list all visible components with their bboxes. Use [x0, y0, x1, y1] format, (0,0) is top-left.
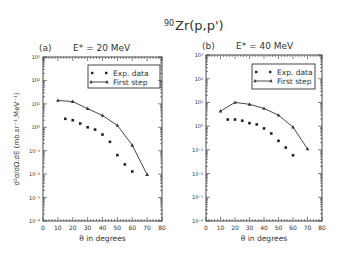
- x-tick-label: 40: [99, 224, 107, 231]
- x-tick-label: 70: [304, 224, 312, 231]
- chart-canvas: 90 Zr(p,p') (a)E* = 20 MeV01020304050607…: [0, 0, 343, 256]
- exp-data-point: [270, 132, 273, 135]
- x-tick-label: 70: [143, 224, 151, 231]
- x-axis-label: θ in degrees: [79, 234, 125, 243]
- legend-exp-marker: [255, 71, 257, 73]
- exp-data-point: [86, 126, 89, 129]
- y-tick-label: 10⁰: [32, 124, 40, 130]
- legend-first-step-label: First step: [277, 77, 312, 86]
- figure: 90 Zr(p,p') (a)E* = 20 MeV01020304050607…: [0, 0, 343, 256]
- legend: Exp. dataFirst step: [252, 64, 315, 89]
- legend-first-step-label: First step: [113, 78, 148, 87]
- y-tick-label: 10⁻¹: [29, 148, 40, 154]
- legend-exp-marker: [105, 72, 107, 74]
- exp-data-point: [292, 154, 295, 157]
- panel-b: (b)E* = 40 MeV01020304050607080θ in degr…: [192, 41, 326, 243]
- y-tick-label: 10⁻²: [29, 171, 40, 177]
- x-tick-label: 20: [231, 224, 239, 231]
- y-tick-label: 10³: [32, 54, 40, 60]
- legend-exp-label: Exp. data: [113, 69, 149, 78]
- y-tick-label: 10²: [32, 77, 40, 83]
- exp-data-point: [241, 119, 244, 122]
- x-tick-label: 80: [158, 224, 166, 231]
- x-tick-label: 10: [54, 224, 62, 231]
- legend-exp-label: Exp. data: [277, 68, 313, 77]
- exp-data-point: [234, 118, 237, 121]
- exp-data-point: [263, 127, 266, 130]
- y-tick-label: 10⁻³: [29, 195, 40, 201]
- x-tick-label: 30: [246, 224, 254, 231]
- x-axis-label: θ in degrees: [241, 234, 287, 243]
- exp-data-point: [255, 123, 258, 126]
- y-tick-label: 10⁻⁴: [192, 218, 203, 224]
- exp-data-point: [79, 122, 82, 125]
- panel-label: (b): [202, 41, 215, 51]
- exp-data-point: [284, 146, 287, 149]
- y-tick-label: 10⁰: [195, 123, 203, 129]
- y-tick-label: 10⁻²: [192, 171, 203, 177]
- first-step-curve: [58, 100, 147, 174]
- panel-title: E* = 20 MeV: [73, 43, 131, 53]
- exp-data-point: [94, 128, 97, 131]
- y-tick-label: 10¹: [32, 101, 40, 107]
- y-axis-label: d²σ/dΩ.dE (mb.sr⁻¹.MeV⁻¹): [13, 92, 21, 185]
- y-tick-label: 10³: [195, 52, 203, 58]
- x-tick-label: 60: [128, 224, 136, 231]
- x-tick-label: 30: [84, 224, 92, 231]
- exp-data-point: [226, 118, 229, 121]
- exp-data-point: [116, 154, 119, 157]
- y-tick-label: 10⁻¹: [192, 147, 203, 153]
- exp-data-point: [109, 141, 112, 144]
- panel-label: (a): [39, 43, 52, 53]
- x-tick-label: 20: [69, 224, 77, 231]
- x-tick-label: 60: [289, 224, 297, 231]
- y-tick-label: 10⁻⁴: [29, 218, 40, 224]
- x-tick-label: 50: [114, 224, 122, 231]
- legend-exp-marker: [269, 71, 271, 73]
- panel-title: E* = 40 MeV: [236, 41, 294, 51]
- x-tick-label: 0: [204, 224, 208, 231]
- exp-data-point: [64, 118, 67, 121]
- first-step-marker: [116, 123, 120, 126]
- exp-data-point: [71, 119, 74, 122]
- exp-data-point: [124, 163, 127, 166]
- x-tick-label: 40: [260, 224, 268, 231]
- exp-data-point: [248, 122, 251, 125]
- exp-data-point: [131, 170, 134, 173]
- legend: Exp. dataFirst step: [88, 65, 160, 88]
- exp-data-point: [277, 140, 280, 143]
- x-tick-label: 0: [41, 224, 45, 231]
- y-tick-label: 10¹: [195, 99, 203, 105]
- legend-exp-marker: [91, 72, 93, 74]
- x-tick-label: 10: [217, 224, 225, 231]
- panel-a: (a)E* = 20 MeV01020304050607080θ in degr…: [13, 43, 166, 243]
- y-tick-label: 10⁻³: [192, 194, 203, 200]
- figure-title: Zr(p,p'): [175, 18, 224, 33]
- x-tick-label: 50: [275, 224, 283, 231]
- title-superscript: 90: [164, 19, 174, 28]
- exp-data-point: [101, 133, 104, 136]
- x-tick-label: 80: [318, 224, 326, 231]
- y-tick-label: 10²: [195, 76, 203, 82]
